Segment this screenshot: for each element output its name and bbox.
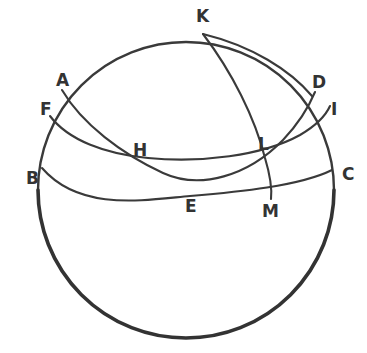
sphere-diagram-canvas [0,0,367,353]
point-label-C: C [342,166,354,183]
point-label-M: M [262,203,279,220]
point-label-H: H [133,142,147,159]
point-label-B: B [26,170,39,187]
point-label-L: L [258,136,269,153]
point-label-A: A [56,72,69,89]
great-circle-A-E-D [62,90,315,180]
point-label-D: D [312,74,326,91]
great-circle-K-D [203,34,312,96]
point-label-K: K [196,8,209,25]
point-label-I: I [331,101,337,118]
sphere-diagram: K A D F I L H B C E M [0,0,367,353]
point-label-E: E [185,198,197,215]
point-label-F: F [40,101,52,118]
great-circle-K-L-M [203,34,271,199]
great-circle-F-H-L-I [50,106,330,160]
